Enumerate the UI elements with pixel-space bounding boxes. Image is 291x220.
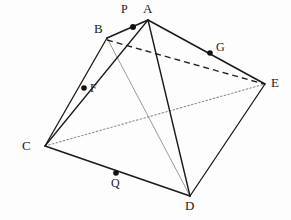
edge-a-e bbox=[148, 20, 265, 84]
point-label-f: F bbox=[90, 82, 97, 95]
edge-b-e-dashed bbox=[107, 40, 264, 84]
point-dot-p bbox=[130, 24, 136, 30]
edge-c-b bbox=[45, 38, 107, 146]
figure-canvas bbox=[0, 0, 291, 220]
edge-c-e-dotted bbox=[45, 84, 265, 146]
edge-e-d bbox=[190, 84, 265, 196]
vertex-label-c: C bbox=[22, 139, 31, 152]
geometry-figure: A B C D E P F G Q bbox=[0, 0, 291, 220]
point-dot-q bbox=[113, 170, 119, 176]
edge-a-b bbox=[107, 20, 148, 38]
point-label-p: P bbox=[121, 3, 128, 16]
point-dot-f bbox=[81, 85, 87, 91]
point-label-q: Q bbox=[111, 177, 120, 190]
edge-a-d bbox=[148, 20, 190, 196]
vertex-label-e: E bbox=[271, 76, 279, 89]
point-label-g: G bbox=[216, 41, 225, 54]
vertex-label-b: B bbox=[94, 22, 103, 35]
vertex-label-d: D bbox=[185, 199, 194, 212]
vertex-label-a: A bbox=[143, 2, 152, 15]
point-dot-g bbox=[207, 50, 213, 56]
